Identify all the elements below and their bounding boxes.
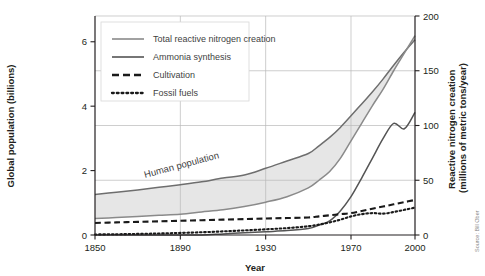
legend-label: Cultivation xyxy=(153,70,195,80)
y-axis-title: Global population (billions) xyxy=(5,65,16,188)
x-axis-title: Year xyxy=(245,262,265,273)
nitrogen-population-chart: 185018901930197020000246050100150200 Glo… xyxy=(0,0,485,276)
y-tick-label: 0 xyxy=(82,230,87,241)
x-tick-label: 2000 xyxy=(404,242,425,253)
y2-tick-label: 200 xyxy=(423,11,439,22)
svg-text:Reactive nitrogen creation: Reactive nitrogen creation (millions of … xyxy=(446,63,468,193)
y2-tick-label: 100 xyxy=(423,120,439,131)
legend-label: Total reactive nitrogen creation xyxy=(153,34,276,44)
legend: Total reactive nitrogen creationAmmonia … xyxy=(101,22,276,101)
y2-axis-title: Reactive nitrogen creation (millions of … xyxy=(446,63,468,193)
y2-tick-label: 0 xyxy=(423,230,428,241)
y2-tick-label: 50 xyxy=(423,175,434,186)
x-tick-label: 1890 xyxy=(170,242,191,253)
legend-label: Ammonia synthesis xyxy=(153,52,232,62)
y2-tick-label: 150 xyxy=(423,65,439,76)
y-tick-label: 2 xyxy=(82,165,87,176)
x-tick-label: 1930 xyxy=(255,242,276,253)
figure-container: 185018901930197020000246050100150200 Glo… xyxy=(0,0,485,276)
y-tick-label: 4 xyxy=(82,101,87,112)
legend-label: Fossil fuels xyxy=(153,88,199,98)
source-credit: Source: Bill Ober xyxy=(474,210,480,252)
x-tick-label: 1970 xyxy=(340,242,361,253)
y2-axis-title-line2: (millions of metric tons/year) xyxy=(457,63,468,193)
y2-axis-title-line1: Reactive nitrogen creation xyxy=(446,69,457,189)
y-tick-label: 6 xyxy=(82,36,87,47)
x-tick-label: 1850 xyxy=(84,242,105,253)
